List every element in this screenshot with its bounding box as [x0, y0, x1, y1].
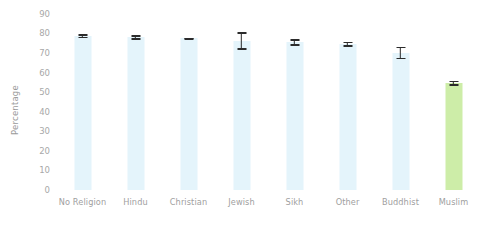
error-bar-stem — [241, 32, 242, 50]
x-axis-tick-label: Christian — [170, 197, 207, 207]
bar-group: No Religion — [56, 8, 109, 190]
bar — [445, 83, 462, 190]
error-bar-cap-top — [343, 42, 352, 44]
bar-group: Jewish — [215, 8, 268, 190]
error-bar — [343, 42, 352, 47]
chart-container: Percentage No ReligionHinduChristianJewi… — [0, 0, 487, 226]
bar-group: Other — [321, 8, 374, 190]
error-bar-cap-top — [449, 81, 458, 83]
bar — [127, 37, 144, 190]
error-bar — [449, 81, 458, 86]
error-bar-cap-top — [290, 39, 299, 41]
error-bar-cap-top — [131, 35, 140, 37]
bars-layer: No ReligionHinduChristianJewishSikhOther… — [56, 8, 480, 190]
error-bar-cap-bottom — [343, 45, 352, 47]
error-bar — [184, 38, 193, 40]
bar — [233, 41, 250, 190]
x-axis-tick-label: Jewish — [228, 197, 254, 207]
bar-group: Sikh — [268, 8, 321, 190]
bar-group: Christian — [162, 8, 215, 190]
plot-area: No ReligionHinduChristianJewishSikhOther… — [56, 8, 480, 190]
y-axis-tick-label: 50 — [24, 87, 50, 97]
error-bar — [78, 34, 87, 38]
y-axis-tick-label: 0 — [24, 185, 50, 195]
bar — [74, 36, 91, 190]
error-bar-cap-bottom — [449, 84, 458, 86]
bar-group: Muslim — [427, 8, 480, 190]
x-axis-tick-label: Hindu — [123, 197, 148, 207]
y-axis-tick-label: 80 — [24, 28, 50, 38]
error-bar — [396, 47, 405, 60]
error-bar-cap-bottom — [131, 38, 140, 40]
y-axis-tick-label: 30 — [24, 126, 50, 136]
x-axis-tick-label: Other — [336, 197, 360, 207]
error-bar-cap-bottom — [290, 44, 299, 46]
error-bar-cap-top — [237, 32, 246, 34]
y-axis-tick-label: 20 — [24, 146, 50, 156]
error-bar-cap-top — [396, 47, 405, 49]
error-bar — [290, 39, 299, 46]
x-axis-tick-label: Muslim — [439, 197, 469, 207]
error-bar — [131, 35, 140, 40]
bar — [180, 38, 197, 190]
y-axis-tick-label: 90 — [24, 9, 50, 19]
error-bar — [237, 32, 246, 50]
x-axis-tick-label: Sikh — [286, 197, 304, 207]
y-axis-tick-label: 40 — [24, 107, 50, 117]
x-axis-tick-label: Buddhist — [382, 197, 419, 207]
bar-group: Buddhist — [374, 8, 427, 190]
error-bar-cap-bottom — [396, 58, 405, 60]
bar — [286, 42, 303, 190]
bar — [392, 53, 409, 190]
x-axis-tick-label: No Religion — [59, 197, 106, 207]
error-bar-cap-bottom — [184, 38, 193, 40]
error-bar-cap-bottom — [78, 37, 87, 39]
y-axis-tick-label: 10 — [24, 165, 50, 175]
bar — [339, 44, 356, 190]
y-axis-tick-label: 70 — [24, 48, 50, 58]
bar-group: Hindu — [109, 8, 162, 190]
error-bar-cap-bottom — [237, 48, 246, 50]
y-axis-title: Percentage — [10, 60, 24, 160]
y-axis-tick-label: 60 — [24, 68, 50, 78]
